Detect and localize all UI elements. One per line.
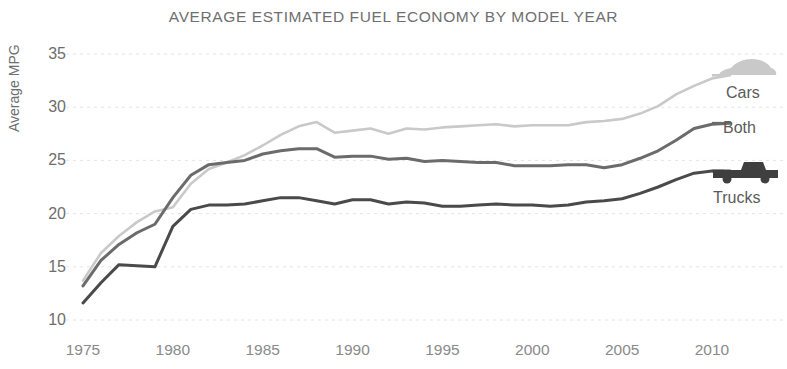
truck-icon (711, 158, 781, 186)
series-label-cars: Cars (726, 85, 760, 101)
x-tick-2005: 2005 (592, 342, 652, 358)
x-tick-2000: 2000 (502, 342, 562, 358)
x-tick-1980: 1980 (143, 342, 203, 358)
series-label-trucks: Trucks (713, 190, 760, 206)
fuel-economy-chart: AVERAGE ESTIMATED FUEL ECONOMY BY MODEL … (0, 0, 787, 369)
x-tick-2010: 2010 (682, 342, 742, 358)
series-line-both (83, 123, 730, 286)
series-line-cars (83, 75, 730, 280)
x-tick-1995: 1995 (412, 342, 472, 358)
x-tick-1990: 1990 (323, 342, 383, 358)
plot-area (0, 0, 787, 369)
series-label-both: Both (723, 120, 756, 136)
x-tick-1975: 1975 (53, 342, 113, 358)
x-tick-1985: 1985 (233, 342, 293, 358)
car-icon (716, 56, 778, 80)
